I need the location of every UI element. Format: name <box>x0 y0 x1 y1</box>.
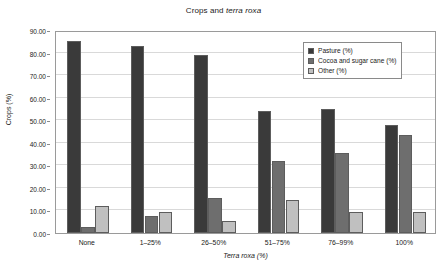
chart-container: Crops and terra roxa 0.0010.0020.0030.00… <box>0 0 447 276</box>
y-tick-label: 20.00 <box>30 185 46 192</box>
x-tick-label: 51–75% <box>265 239 290 246</box>
y-tick-label: 40.00 <box>30 140 46 147</box>
legend-label: Other (%) <box>318 66 347 75</box>
y-tick-mark <box>47 211 50 212</box>
bar <box>385 125 399 233</box>
x-tick-label: None <box>79 239 95 246</box>
gridline <box>56 119 435 120</box>
x-tick-label: 26–50% <box>201 239 226 246</box>
legend-swatch-icon <box>308 58 314 64</box>
bar <box>258 111 272 233</box>
x-tick-label: 100% <box>396 239 413 246</box>
y-tick-mark <box>47 121 50 122</box>
y-tick-mark <box>47 31 50 32</box>
bar <box>67 41 81 233</box>
bar <box>413 212 427 233</box>
y-tick-label: 30.00 <box>30 163 46 170</box>
bar <box>145 216 159 233</box>
legend-item[interactable]: Pasture (%) <box>308 46 396 55</box>
bar <box>131 46 145 233</box>
gridline <box>56 97 435 98</box>
y-tick-label: 90.00 <box>30 28 46 35</box>
chart-legend: Pasture (%)Cocoa and sugar cane (%)Other… <box>303 42 402 79</box>
chart-title-plain: Crops and <box>186 6 226 15</box>
bar <box>208 198 222 233</box>
y-tick-mark <box>47 76 50 77</box>
legend-item[interactable]: Other (%) <box>308 66 396 75</box>
legend-label: Pasture (%) <box>318 46 353 55</box>
chart-title: Crops and terra roxa <box>0 6 447 15</box>
y-tick-mark <box>47 234 50 235</box>
chart-title-italic: terra roxa <box>226 6 261 15</box>
bar-group <box>194 32 236 233</box>
y-axis-title: Crops (%) <box>5 65 12 155</box>
bar-group <box>131 32 173 233</box>
bar <box>321 109 335 233</box>
x-tick-label: 1–25% <box>140 239 161 246</box>
bar <box>272 161 286 233</box>
y-tick-mark <box>47 144 50 145</box>
legend-swatch-icon <box>308 48 314 54</box>
gridline <box>56 187 435 188</box>
x-axis-title: Terra roxa (%) <box>55 252 436 259</box>
bar-group <box>258 32 300 233</box>
bar <box>335 153 349 233</box>
y-tick-label: 10.00 <box>30 208 46 215</box>
bar <box>399 135 413 233</box>
legend-item[interactable]: Cocoa and sugar cane (%) <box>308 56 396 65</box>
bar <box>95 206 109 233</box>
y-tick-label: 0.00 <box>33 231 46 238</box>
bar <box>194 55 208 233</box>
y-tick-label: 50.00 <box>30 118 46 125</box>
gridline <box>56 142 435 143</box>
legend-label: Cocoa and sugar cane (%) <box>318 56 396 65</box>
bar <box>159 212 173 233</box>
y-tick-mark <box>47 189 50 190</box>
bar-group <box>67 32 109 233</box>
bar <box>286 200 300 233</box>
gridline <box>56 164 435 165</box>
bar <box>81 227 95 233</box>
legend-swatch-icon <box>308 68 314 74</box>
y-tick-mark <box>47 166 50 167</box>
x-tick-label: 76–99% <box>328 239 353 246</box>
x-axis: None1–25%26–50%51–75%76–99%100% <box>55 234 436 254</box>
bar <box>222 221 236 233</box>
gridline <box>56 209 435 210</box>
y-tick-mark <box>47 54 50 55</box>
bar <box>349 212 363 233</box>
y-tick-label: 80.00 <box>30 50 46 57</box>
y-tick-label: 70.00 <box>30 73 46 80</box>
y-tick-mark <box>47 99 50 100</box>
y-tick-label: 60.00 <box>30 95 46 102</box>
